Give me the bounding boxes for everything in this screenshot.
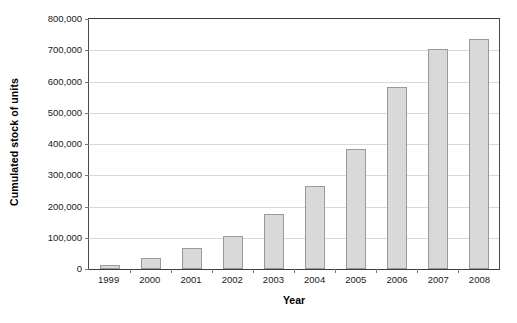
bar[interactable] xyxy=(387,87,407,269)
bar-slot xyxy=(417,19,458,269)
bar[interactable] xyxy=(346,149,366,269)
x-tick-label: 2006 xyxy=(376,274,417,285)
bar-slot xyxy=(376,19,417,269)
bar-slot xyxy=(335,19,376,269)
bar[interactable] xyxy=(182,248,202,269)
bar[interactable] xyxy=(264,214,284,269)
x-tick-label: 2007 xyxy=(418,274,459,285)
bar-slot xyxy=(171,19,212,269)
plot-area xyxy=(88,18,500,270)
y-axis-tick-labels: 0100,000200,000300,000400,000500,000600,… xyxy=(28,18,86,268)
x-tickmark xyxy=(417,269,418,273)
y-tick-label: 800,000 xyxy=(48,13,82,24)
x-tick-label: 2003 xyxy=(253,274,294,285)
y-tick-label: 200,000 xyxy=(48,200,82,211)
bar[interactable] xyxy=(141,258,161,269)
y-tick-label: 500,000 xyxy=(48,106,82,117)
bar[interactable] xyxy=(469,39,489,269)
x-tickmark xyxy=(335,269,336,273)
bar-slot xyxy=(89,19,130,269)
x-tick-label: 2004 xyxy=(294,274,335,285)
bars-layer xyxy=(89,19,499,269)
x-tickmark xyxy=(458,269,459,273)
x-tick-label: 1999 xyxy=(88,274,129,285)
x-axis-tick-labels: 1999200020012002200320042005200620072008 xyxy=(88,274,500,290)
y-tick-label: 400,000 xyxy=(48,138,82,149)
bar-chart: Cumulated stock of units 0100,000200,000… xyxy=(0,0,517,323)
bar-slot xyxy=(212,19,253,269)
x-tickmark xyxy=(294,269,295,273)
x-tickmark xyxy=(130,269,131,273)
bar-slot xyxy=(458,19,499,269)
y-tick-label: 0 xyxy=(77,263,82,274)
y-tick-label: 600,000 xyxy=(48,75,82,86)
bar-slot xyxy=(130,19,171,269)
x-axis-title: Year xyxy=(88,294,500,306)
y-tickmark xyxy=(85,269,89,270)
x-tick-label: 2005 xyxy=(335,274,376,285)
bar[interactable] xyxy=(305,186,325,269)
y-axis-title: Cumulated stock of units xyxy=(0,0,28,283)
y-tick-label: 300,000 xyxy=(48,169,82,180)
bar[interactable] xyxy=(428,49,448,269)
bar-slot xyxy=(253,19,294,269)
x-tick-label: 2001 xyxy=(170,274,211,285)
x-tick-label: 2000 xyxy=(129,274,170,285)
y-tick-label: 100,000 xyxy=(48,231,82,242)
bar-slot xyxy=(294,19,335,269)
x-tick-label: 2008 xyxy=(459,274,500,285)
y-axis-title-text: Cumulated stock of units xyxy=(8,78,20,206)
x-tickmark xyxy=(376,269,377,273)
x-tick-label: 2002 xyxy=(212,274,253,285)
x-tickmark xyxy=(212,269,213,273)
x-tickmark xyxy=(253,269,254,273)
bar[interactable] xyxy=(223,236,243,269)
y-tick-label: 700,000 xyxy=(48,44,82,55)
x-tickmark xyxy=(171,269,172,273)
bar[interactable] xyxy=(100,265,120,269)
